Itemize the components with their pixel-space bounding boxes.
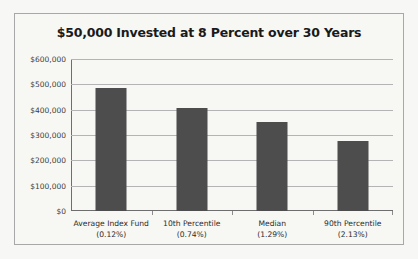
category-name: Median (258, 219, 286, 228)
y-axis-tick-label: $600,000 (30, 55, 66, 64)
x-axis-category-label: 90th Percentile(2.13%) (324, 218, 381, 240)
plot-area: $600,000$500,000$400,000$300,000$200,000… (71, 59, 393, 211)
x-axis-tick (232, 211, 233, 215)
y-axis-tick-label: $200,000 (30, 156, 66, 165)
category-name: 10th Percentile (163, 219, 220, 228)
bar-slot (152, 59, 233, 211)
bar (96, 88, 127, 211)
y-axis-tick-label: $0 (56, 207, 66, 216)
category-expense-ratio: (0.12%) (74, 229, 149, 240)
bar-slot (71, 59, 152, 211)
y-axis-tick-label: $300,000 (30, 131, 66, 140)
chart-title: $50,000 Invested at 8 Percent over 30 Ye… (15, 25, 403, 40)
chart-frame: $50,000 Invested at 8 Percent over 30 Ye… (14, 13, 404, 245)
category-name: Average Index Fund (74, 219, 149, 228)
x-axis-category-label: Median(1.29%) (257, 218, 287, 240)
x-axis-category-label: Average Index Fund(0.12%) (74, 218, 149, 240)
chart-screenshot: $50,000 Invested at 8 Percent over 30 Ye… (0, 0, 418, 259)
bar (337, 141, 368, 211)
y-axis-tick-label: $400,000 (30, 105, 66, 114)
bar-slot (232, 59, 313, 211)
category-expense-ratio: (1.29%) (257, 229, 287, 240)
bar (176, 108, 207, 211)
x-axis-tick (392, 211, 393, 215)
category-expense-ratio: (0.74%) (163, 229, 220, 240)
bar-slot (313, 59, 394, 211)
y-axis-tick-label: $100,000 (30, 181, 66, 190)
y-axis-tick-label: $500,000 (30, 80, 66, 89)
bar (257, 122, 288, 211)
x-axis-tick (313, 211, 314, 215)
x-axis-category-label: 10th Percentile(0.74%) (163, 218, 220, 240)
category-expense-ratio: (2.13%) (324, 229, 381, 240)
x-axis-tick (152, 211, 153, 215)
category-name: 90th Percentile (324, 219, 381, 228)
